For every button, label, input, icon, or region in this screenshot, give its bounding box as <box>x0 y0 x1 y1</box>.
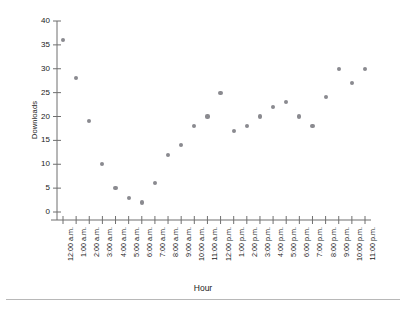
data-point <box>166 153 170 157</box>
x-tick-label: 6:00 p.m. <box>302 227 311 283</box>
y-tick-label: 10 <box>26 159 50 168</box>
data-point <box>245 124 249 128</box>
data-point <box>310 124 314 128</box>
x-tick-label: 9:00 a.m. <box>184 227 193 283</box>
x-tick-label: 4:00 a.m. <box>119 227 128 283</box>
x-tick-label: 9:00 p.m. <box>342 227 351 283</box>
data-point <box>113 186 117 190</box>
x-tick-label: 7:00 a.m. <box>158 227 167 283</box>
footer-divider <box>6 299 400 300</box>
data-point <box>337 67 341 71</box>
y-tick-label: 25 <box>26 88 50 97</box>
data-point <box>140 200 144 204</box>
y-tick-label: 15 <box>26 135 50 144</box>
x-tick-label: 11:00 p.m. <box>368 227 377 283</box>
x-tick-label: 11:00 a.m. <box>210 227 219 283</box>
x-tick-label: 8:00 a.m. <box>171 227 180 283</box>
x-tick-label: 1:00 a.m. <box>79 227 88 283</box>
x-tick-label: 3:00 p.m. <box>263 227 272 283</box>
x-tick-label: 12:00 a.m. <box>66 227 75 283</box>
x-tick-label: 10:00 p.m. <box>355 227 364 283</box>
downloads-by-hour-scatter-chart: Downloads Hour 0510152025303540 12:00 a.… <box>0 0 406 314</box>
data-point <box>232 129 236 133</box>
x-tick-label: 4:00 p.m. <box>276 227 285 283</box>
x-tick-label: 8:00 p.m. <box>329 227 338 283</box>
y-tick-label: 0 <box>26 207 50 216</box>
x-axis-title: Hour <box>0 283 406 293</box>
x-tick-label: 1:00 p.m. <box>237 227 246 283</box>
x-tick-label: 12:00 p.m. <box>224 227 233 283</box>
y-tick-label: 20 <box>26 112 50 121</box>
x-tick-label: 2:00 a.m. <box>92 227 101 283</box>
x-tick-label: 5:00 a.m. <box>132 227 141 283</box>
data-point <box>127 196 131 200</box>
data-point <box>258 114 262 118</box>
data-point <box>205 114 209 118</box>
x-tick-label: 6:00 a.m. <box>145 227 154 283</box>
x-tick-label: 7:00 p.m. <box>315 227 324 283</box>
y-tick-label: 35 <box>26 40 50 49</box>
y-tick-label: 40 <box>26 16 50 25</box>
y-tick-label: 5 <box>26 183 50 192</box>
data-point <box>363 67 367 71</box>
y-tick-label: 30 <box>26 64 50 73</box>
x-tick-label: 10:00 a.m. <box>197 227 206 283</box>
data-point <box>218 91 222 95</box>
x-tick-label: 5:00 p.m. <box>289 227 298 283</box>
x-tick-label: 3:00 a.m. <box>105 227 114 283</box>
x-tick-label: 2:00 p.m. <box>250 227 259 283</box>
